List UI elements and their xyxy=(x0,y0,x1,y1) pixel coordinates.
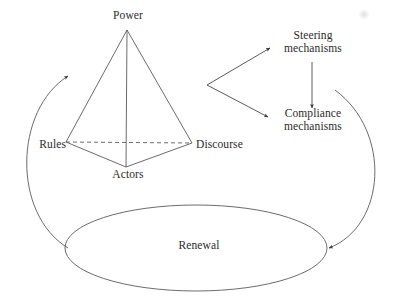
scan-smudge-artifact xyxy=(358,9,370,20)
pyramid-edge-power-rules xyxy=(66,30,127,142)
node-label-steering-mechanisms: Steering mechanisms xyxy=(276,29,350,55)
pyramid-shape xyxy=(66,30,192,167)
pyramid-edge-rules-discourse-dashed xyxy=(66,142,192,143)
pyramid-edge-discourse-actors xyxy=(126,143,192,167)
node-label-discourse: Discourse xyxy=(196,138,254,151)
pyramid-edge-rules-actors xyxy=(66,142,126,167)
pyramid-edge-power-actors xyxy=(126,30,127,167)
diagram-canvas: Power Rules Discourse Actors Steering me… xyxy=(0,0,395,303)
node-label-actors: Actors xyxy=(106,168,150,181)
fork-arrow-to-steering xyxy=(207,48,270,85)
node-label-renewal: Renewal xyxy=(168,239,230,252)
fork-connector xyxy=(207,48,270,117)
fork-arrow-to-compliance xyxy=(207,85,268,117)
left-feedback-curve xyxy=(27,76,68,248)
node-label-rules: Rules xyxy=(30,138,66,151)
pyramid-edge-power-discourse xyxy=(127,30,192,143)
node-label-compliance-mechanisms: Compliance mechanisms xyxy=(276,107,350,133)
node-label-power: Power xyxy=(105,9,151,22)
